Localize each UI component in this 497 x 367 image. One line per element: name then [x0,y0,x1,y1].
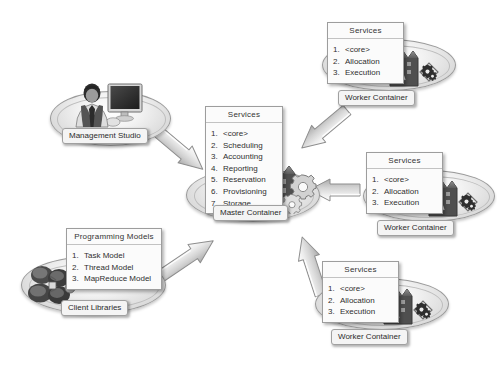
list-item-label: Task Model [84,250,157,262]
list-item-number: 3. [72,273,84,285]
card-master-services[interactable]: Services 1. <core> 2. Scheduling 3. Acco… [205,106,283,214]
list-item-number: 3. [372,197,384,209]
list-item-label: <core> [384,174,438,186]
arrow-worker-top-to-master [294,102,354,157]
label-worker-container-bottom[interactable]: Worker Container [331,329,408,345]
list-item-number: 2. [72,262,84,274]
label-master-container[interactable]: Master Container [213,205,288,221]
list-item-label: <core> [340,283,394,295]
list-item: 2. Thread Model [72,262,157,274]
list-item-number: 2. [328,295,340,307]
card-worker-bottom-services[interactable]: Services 1. <core> 2. Allocation 3. Exec… [322,261,399,323]
list-item: 3. Execution [328,306,394,318]
list-item-label: Thread Model [84,262,157,274]
list-item-number: 1. [328,283,340,295]
list-item-label: Allocation [345,56,399,68]
list-item-label: Reporting [223,163,278,175]
list-item-number: 3. [328,306,340,318]
list-item-label: MapReduce Model [84,273,157,285]
card-title-worker-top-services: Services [328,23,403,39]
list-item-label: Provisioning [223,186,278,198]
list-item-number: 5. [211,174,223,186]
label-worker-container-top[interactable]: Worker Container [338,90,415,106]
list-item-label: Execution [345,67,399,79]
label-worker-container-middle[interactable]: Worker Container [377,220,454,236]
list-item: 1. <core> [211,128,278,140]
card-body-worker-middle-services: 1. <core> 2. Allocation 3. Execution [367,169,442,213]
architecture-diagram: Management Studio Programming Models [0,0,497,367]
list-item: 3. Execution [333,67,399,79]
list-item-label: Allocation [384,186,438,198]
list-item: 6. Provisioning [211,186,278,198]
list-item-number: 1. [372,174,384,186]
card-body-worker-bottom-services: 1. <core> 2. Allocation 3. Execution [323,278,398,322]
card-body-worker-top-services: 1. <core> 2. Allocation 3. Execution [328,39,403,83]
user-and-monitor-icon [70,82,152,134]
list-item: 1. <core> [333,44,399,56]
list-item-label: Reservation [223,174,278,186]
label-management-studio[interactable]: Management Studio [62,128,148,144]
card-body-programming-models: 1. Task Model 2. Thread Model 3. MapRedu… [67,245,161,289]
list-item: 2. Scheduling [211,140,278,152]
card-title-worker-bottom-services: Services [323,262,398,278]
list-item-number: 2. [333,56,345,68]
list-item-label: <core> [345,44,399,56]
list-item: 2. Allocation [372,186,438,198]
list-item: 2. Allocation [328,295,394,307]
list-item-number: 1. [333,44,345,56]
list-item-number: 6. [211,186,223,198]
list-item: 3. Execution [372,197,438,209]
card-title-programming-models: Programming Models [67,229,161,245]
list-item: 5. Reservation [211,174,278,186]
card-worker-middle-services[interactable]: Services 1. <core> 2. Allocation 3. Exec… [366,152,443,214]
list-item: 2. Allocation [333,56,399,68]
list-item-label: Accounting [223,151,278,163]
list-item-label: Allocation [340,295,394,307]
list-item-number: 3. [333,67,345,79]
card-title-worker-middle-services: Services [367,153,442,169]
list-item: 3. MapReduce Model [72,273,157,285]
list-item: 1. <core> [328,283,394,295]
list-item: 3. Accounting [211,151,278,163]
list-item-number: 2. [211,140,223,152]
list-item-number: 3. [211,151,223,163]
list-item-label: Scheduling [223,140,278,152]
card-body-master-services: 1. <core> 2. Scheduling 3. Accounting 4.… [206,123,282,213]
label-client-libraries[interactable]: Client Libraries [61,300,128,316]
list-item-label: <core> [223,128,278,140]
arrow-client-libraries-to-master [155,231,220,285]
list-item-number: 1. [72,250,84,262]
card-programming-models[interactable]: Programming Models 1. Task Model 2. Thre… [66,228,162,290]
list-item: 1. <core> [372,174,438,186]
list-item-label: Execution [384,197,438,209]
card-title-master-services: Services [206,107,282,123]
list-item-label: Execution [340,306,394,318]
list-item-number: 2. [372,186,384,198]
card-worker-top-services[interactable]: Services 1. <core> 2. Allocation 3. Exec… [327,22,404,84]
list-item-number: 4. [211,163,223,175]
list-item: 1. Task Model [72,250,157,262]
list-item-number: 1. [211,128,223,140]
list-item: 4. Reporting [211,163,278,175]
